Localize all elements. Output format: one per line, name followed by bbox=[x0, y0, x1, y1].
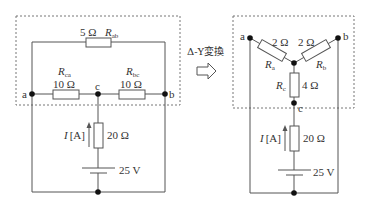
node-a-right bbox=[247, 35, 253, 41]
arrow-right-icon bbox=[197, 63, 216, 79]
label-c: c bbox=[95, 80, 100, 92]
ra-name: Ra bbox=[264, 58, 276, 72]
rbc-name: Rbc bbox=[125, 65, 139, 79]
source-value: 25 V bbox=[119, 164, 141, 176]
node-star-center bbox=[291, 60, 297, 66]
label-c-right: c bbox=[298, 102, 303, 114]
r20-value-right: 20 Ω bbox=[303, 132, 325, 144]
transform-label: Δ-Y変換 bbox=[187, 45, 224, 57]
label-b-right: b bbox=[343, 30, 349, 42]
node-a bbox=[29, 91, 35, 97]
circuit-diagram: a c b 5 Ω Rab Rca 10 Ω Rbc 10 Ω 20 Ω I[A… bbox=[0, 0, 368, 208]
right-circuit: a b c 2 Ω 2 Ω Ra Rb Rc 4 Ω 20 Ω I[A] 25 … bbox=[233, 16, 354, 196]
rab-name: Rab bbox=[104, 26, 119, 40]
label-a: a bbox=[22, 88, 27, 100]
label-a-right: a bbox=[240, 30, 245, 42]
rb-name: Rb bbox=[315, 58, 327, 72]
label-b: b bbox=[169, 88, 175, 100]
rc-value: 4 Ω bbox=[302, 79, 318, 91]
resistor-rab bbox=[86, 38, 111, 47]
transform-indicator: Δ-Y変換 bbox=[187, 45, 224, 79]
rb-value: 2 Ω bbox=[298, 36, 314, 48]
resistor-rc bbox=[290, 73, 299, 97]
node-bottom bbox=[95, 189, 101, 195]
rc-name: Rc bbox=[275, 79, 286, 93]
r20-value: 20 Ω bbox=[107, 129, 129, 141]
rbc-value: 10 Ω bbox=[120, 78, 142, 90]
left-circuit: a c b 5 Ω Rab Rca 10 Ω Rbc 10 Ω 20 Ω I[A… bbox=[16, 16, 180, 195]
node-b-right bbox=[335, 35, 341, 41]
resistor-20ohm bbox=[94, 123, 103, 148]
rab-value: 5 Ω bbox=[80, 26, 96, 38]
current-label-right: I[A] bbox=[259, 132, 281, 144]
rca-value: 10 Ω bbox=[53, 78, 75, 90]
node-c bbox=[95, 91, 101, 97]
resistor-rbc bbox=[119, 90, 145, 99]
node-c-right bbox=[291, 100, 297, 106]
node-bottom-right bbox=[291, 190, 297, 196]
rca-name: Rca bbox=[57, 65, 72, 79]
source-value-right: 25 V bbox=[313, 166, 335, 178]
current-label: I[A] bbox=[63, 129, 85, 141]
ra-value: 2 Ω bbox=[272, 36, 288, 48]
resistor-20ohm-right bbox=[290, 126, 299, 151]
node-b bbox=[162, 91, 168, 97]
resistor-rca bbox=[53, 90, 79, 99]
